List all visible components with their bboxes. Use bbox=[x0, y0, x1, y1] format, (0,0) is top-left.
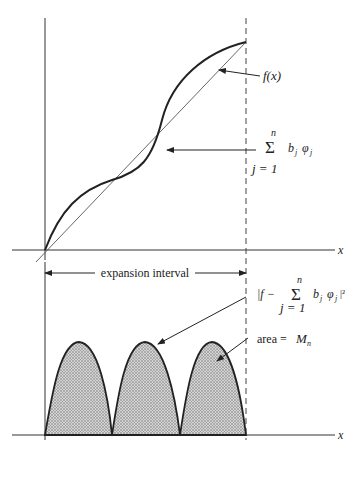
expansion-diagram: x f(x) n Σ b j φ j j = 1 expansion inter… bbox=[0, 0, 357, 481]
svg-text:area =: area = bbox=[257, 332, 287, 346]
function-line-f bbox=[36, 42, 246, 262]
error-lobe-2 bbox=[112, 342, 180, 435]
bottom-x-axis-label: x bbox=[337, 428, 344, 442]
svg-text:j = 1: j = 1 bbox=[278, 300, 305, 315]
svg-text:j: j bbox=[294, 148, 298, 157]
bottom-plot: x |f − n Σ b j φ j |² j = 1 area = M n bbox=[12, 274, 345, 442]
sum-label: n Σ b j φ j j = 1 bbox=[250, 127, 313, 176]
f-label-arrow bbox=[219, 70, 260, 76]
svg-text:φ: φ bbox=[327, 287, 334, 301]
svg-text:b: b bbox=[313, 287, 319, 301]
area-label: area = M n bbox=[257, 331, 311, 348]
svg-text:|²: |² bbox=[340, 288, 345, 299]
f-label: f(x) bbox=[263, 68, 281, 83]
interval-label: expansion interval bbox=[101, 266, 190, 280]
svg-text:|f −: |f − bbox=[257, 287, 275, 301]
svg-text:n: n bbox=[307, 339, 311, 348]
svg-text:j: j bbox=[334, 294, 338, 303]
svg-text:j: j bbox=[309, 148, 313, 157]
svg-text:φ: φ bbox=[302, 141, 309, 155]
error-lobe-3 bbox=[180, 342, 246, 435]
svg-text:b: b bbox=[288, 141, 294, 155]
error-lobe-1 bbox=[45, 342, 112, 435]
svg-text:n: n bbox=[297, 274, 302, 285]
top-x-axis-label: x bbox=[337, 243, 344, 257]
svg-text:j: j bbox=[319, 294, 323, 303]
svg-text:n: n bbox=[271, 127, 276, 138]
svg-text:j = 1: j = 1 bbox=[250, 161, 277, 176]
error-label: |f − n Σ b j φ j |² j = 1 bbox=[257, 274, 345, 315]
svg-text:Σ: Σ bbox=[265, 138, 275, 157]
error-label-arrow bbox=[158, 297, 246, 344]
